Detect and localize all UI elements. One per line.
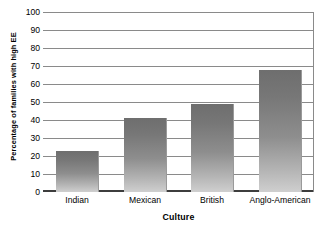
y-tick-label: 80: [16, 44, 40, 53]
y-tick-label: 30: [16, 134, 40, 143]
plot-area: [43, 12, 314, 192]
x-tick-label: Mexican: [129, 196, 161, 205]
y-tick-label: 50: [16, 98, 40, 107]
y-tick-label: 70: [16, 62, 40, 71]
x-tick-label: Indian: [65, 196, 88, 205]
y-tick-label: 90: [16, 26, 40, 35]
bar-chart: Percentage of families with high EE 0102…: [0, 0, 322, 243]
y-tick-label: 60: [16, 80, 40, 89]
x-tick-label: Anglo-American: [249, 196, 310, 205]
bar: [56, 151, 99, 192]
bar: [259, 70, 302, 192]
y-tick-label: 20: [16, 152, 40, 161]
y-axis-tick-labels: 0102030405060708090100: [16, 12, 40, 192]
bars-group: [43, 12, 314, 192]
bar: [124, 118, 167, 192]
y-tick-label: 10: [16, 170, 40, 179]
x-axis-tick-labels: IndianMexicanBritishAnglo-American: [43, 196, 314, 210]
x-axis-title: Culture: [43, 212, 314, 222]
y-tick-label: 100: [16, 8, 40, 17]
bar: [191, 104, 234, 192]
y-tick-label: 40: [16, 116, 40, 125]
x-tick-label: British: [200, 196, 224, 205]
y-tick-label: 0: [16, 188, 40, 197]
